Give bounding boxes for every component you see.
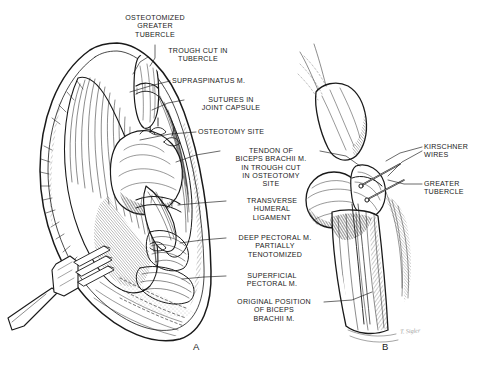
label-line: SUTURES IN [186, 96, 276, 104]
label-line: TUBERCLE [104, 31, 206, 39]
label-line: IN OSTEOTOMY [222, 172, 320, 180]
label-line: TENDON OF [222, 147, 320, 155]
label-line: BRACHII M. [224, 315, 324, 323]
label-line: SITE [222, 180, 320, 188]
label-supraspinatus-m: SUPRASPINATUS M. [172, 77, 264, 85]
label-line: IN TROUGH CUT [222, 164, 320, 172]
label-original-position-of-biceps-brachii-m: ORIGINAL POSITIONOF BICEPSBRACHII M. [224, 298, 324, 323]
label-line: WIRES [424, 151, 484, 159]
label-line: BICEPS BRACHII M. [222, 155, 320, 163]
leader-transverse-humeral-ligament [178, 201, 226, 205]
panel-a-artwork [8, 43, 211, 341]
label-line: DEEP PECTORAL M. [228, 234, 322, 242]
label-line: JOINT CAPSULE [186, 104, 276, 112]
label-line: TUBERCLE [424, 188, 484, 196]
label-tendon-of-biceps-brachii-m: TENDON OFBICEPS BRACHII M.IN TROUGH CUTI… [222, 147, 320, 188]
label-kirschner-wires: KIRSCHNERWIRES [424, 143, 484, 160]
panel-letter-b: B [382, 341, 388, 352]
label-line: SUPERFICIAL [228, 272, 316, 280]
label-line: TENOTOMIZED [228, 251, 322, 259]
label-greater-tubercle-right: GREATERTUBERCLE [424, 180, 484, 197]
label-line: ORIGINAL POSITION [224, 298, 324, 306]
label-line: LIGAMENT [228, 214, 316, 222]
label-line: OSTEOTOMY SITE [198, 128, 284, 136]
label-line: SUPRASPINATUS M. [172, 77, 264, 85]
label-osteotomized-greater-tubercle: OSTEOTOMIZEDGREATERTUBERCLE [104, 14, 206, 39]
label-line: KIRSCHNER [424, 143, 484, 151]
label-line: HUMERAL [228, 205, 316, 213]
leader-greater-tubercle-right [388, 180, 422, 184]
panel-letter-a: A [193, 341, 199, 352]
surgical-illustration-figure: OSTEOTOMIZEDGREATERTUBERCLETROUGH CUT IN… [0, 0, 484, 369]
label-line: TUBERCLE [150, 55, 246, 63]
label-line: OF BICEPS [224, 306, 324, 314]
label-line: OSTEOTOMIZED [104, 14, 206, 22]
label-superficial-pectoral-m: SUPERFICIALPECTORAL M. [228, 272, 316, 289]
label-deep-pectoral-m-partially-tenotomized: DEEP PECTORAL M.PARTIALLYTENOTOMIZED [228, 234, 322, 259]
label-osteotomy-site: OSTEOTOMY SITE [198, 128, 284, 136]
label-line: GREATER [104, 22, 206, 30]
label-trough-cut-in-tubercle: TROUGH CUT INTUBERCLE [150, 47, 246, 64]
label-sutures-in-joint-capsule: SUTURES INJOINT CAPSULE [186, 96, 276, 113]
label-line: PECTORAL M. [228, 280, 316, 288]
label-line: GREATER [424, 180, 484, 188]
label-transverse-humeral-ligament: TRANSVERSEHUMERALLIGAMENT [228, 197, 316, 222]
leader-kirschner-wires-2 [388, 151, 422, 176]
label-line: PARTIALLY [228, 242, 322, 250]
label-line: TROUGH CUT IN [150, 47, 246, 55]
label-line: TRANSVERSE [228, 197, 316, 205]
